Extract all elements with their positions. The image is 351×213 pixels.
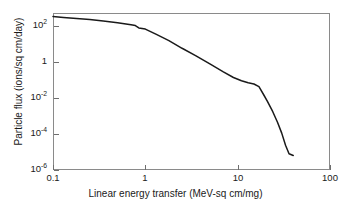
ytick-mark-4	[54, 26, 59, 27]
x-axis-title: Linear energy transfer (MeV-sq cm/mg)	[0, 188, 351, 199]
ytick-mark-0	[54, 170, 59, 171]
figure-container: 0.1 1 10 100 10-6 10-4 10-2 1 102 Linear…	[0, 0, 351, 213]
xtick-mark-3	[330, 165, 331, 170]
ytick-mark-1	[54, 134, 59, 135]
xtick-mark-1	[145, 165, 146, 170]
xtick-label-2: 10	[218, 172, 258, 183]
xtick-label-1: 1	[125, 172, 165, 183]
y-axis-title: Particle flux (ions/sq cm/day)	[13, 0, 24, 172]
chart-curve-layer	[53, 13, 330, 170]
series-line-integral-particle-flux	[53, 17, 293, 156]
xtick-mark-2	[238, 165, 239, 170]
ytick-mark-3	[54, 62, 59, 63]
xtick-label-3: 100	[310, 172, 350, 183]
ytick-mark-2	[54, 98, 59, 99]
